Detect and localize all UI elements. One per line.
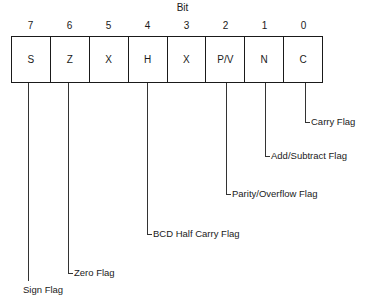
bit-cell-7: S [12,37,51,82]
sign-connector [28,83,29,281]
bit-index-2: 2 [206,20,245,31]
zero-connector [68,83,69,273]
half-carry-flag-label: BCD Half Carry Flag [153,229,240,239]
bit-cell-2: P/V [206,37,245,82]
flag-register: S Z X H X P/V N C [11,36,323,83]
bit-cell-6: Z [51,37,90,82]
bit-cell-1: N [245,37,284,82]
bit-cell-0: C [284,37,322,82]
sign-flag-label: Sign Flag [23,285,63,295]
add-subtract-connector-elbow [265,156,270,157]
parity-overflow-flag-label: Parity/Overflow Flag [232,189,318,199]
bit-index-4: 4 [128,20,167,31]
carry-connector-elbow [305,122,310,123]
add-subtract-connector [265,83,266,156]
bit-index-5: 5 [89,20,128,31]
bit-cell-4: H [129,37,168,82]
zero-flag-label: Zero Flag [74,268,115,278]
bit-index-7: 7 [11,20,50,31]
half-carry-connector-elbow [147,234,152,235]
half-carry-connector [147,83,148,234]
add-subtract-flag-label: Add/Subtract Flag [271,151,347,161]
bit-index-3: 3 [167,20,206,31]
diagram-title: Bit [0,2,365,13]
bit-index-1: 1 [245,20,284,31]
bit-index-6: 6 [50,20,89,31]
carry-connector [305,83,306,122]
bit-cell-3: X [168,37,207,82]
zero-connector-elbow [68,273,73,274]
bit-index-0: 0 [284,20,323,31]
parity-overflow-connector [226,83,227,194]
bit-cell-5: X [90,37,129,82]
carry-flag-label: Carry Flag [311,117,355,127]
parity-overflow-connector-elbow [226,194,231,195]
